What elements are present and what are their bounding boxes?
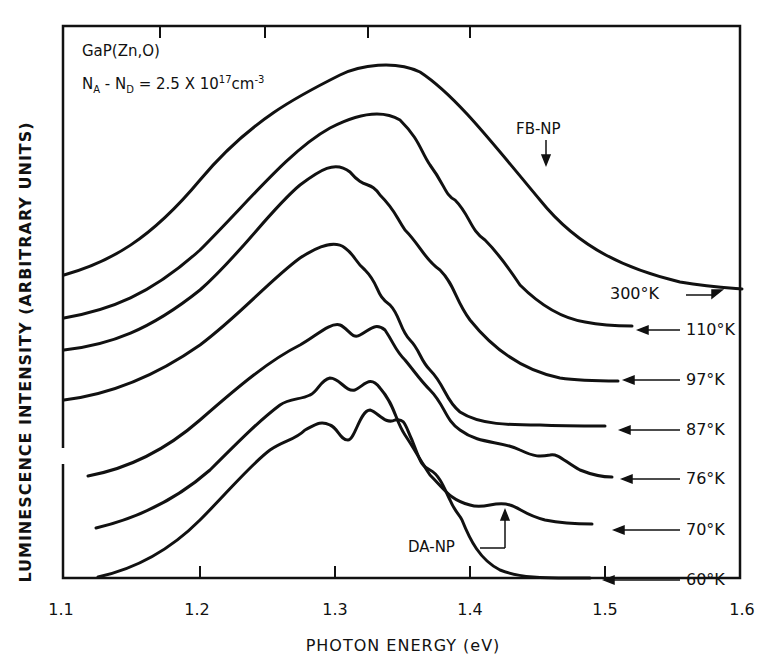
temp-label-87K: 87°K	[686, 420, 725, 439]
curve-97K	[64, 167, 618, 381]
curve-76K	[88, 325, 612, 477]
doping-unit-exp: -3	[254, 74, 264, 85]
x-tick-1.4: 1.4	[457, 600, 482, 619]
curve-60K	[98, 410, 590, 578]
chart-canvas	[0, 0, 774, 668]
doping-sub-d: D	[126, 84, 134, 95]
da-np-label: DA-NP	[408, 538, 455, 556]
y-axis-label-text: LUMINESCENCE INTENSITY (ARBITRARY UNITS)	[16, 121, 35, 582]
x-tick-1.5: 1.5	[592, 600, 617, 619]
curve-87K	[64, 244, 605, 426]
curve-110K	[64, 114, 632, 326]
sample-label: GaP(Zn,O)	[82, 42, 160, 60]
x-tick-1.1: 1.1	[48, 600, 73, 619]
temp-label-60K: 60°K	[686, 570, 725, 589]
doping-mid: - N	[100, 75, 126, 93]
x-axis-label: PHOTON ENERGY (eV)	[0, 636, 774, 655]
x-tick-1.6: 1.6	[729, 600, 754, 619]
x-ticks-top	[160, 26, 470, 38]
temp-label-76K: 76°K	[686, 469, 725, 488]
temp-label-70K: 70°K	[686, 520, 725, 539]
fb-np-label: FB-NP	[516, 120, 561, 138]
x-tick-1.2: 1.2	[184, 600, 209, 619]
x-tick-1.3: 1.3	[322, 600, 347, 619]
spectra-curves	[64, 65, 742, 578]
doping-value: = 2.5 X 10	[134, 75, 219, 93]
doping-n: N	[82, 75, 93, 93]
temp-label-300K: 300°K	[610, 284, 659, 303]
x-axis-label-text: PHOTON ENERGY (eV)	[306, 636, 501, 655]
curve-300K	[64, 65, 742, 289]
doping-exp: 17	[219, 74, 232, 85]
y-axis-label: LUMINESCENCE INTENSITY (ARBITRARY UNITS)	[10, 0, 40, 668]
temp-label-110K: 110°K	[686, 320, 735, 339]
curve-70K	[96, 378, 592, 528]
temp-label-97K: 97°K	[686, 370, 725, 389]
doping-unit: cm	[232, 75, 255, 93]
doping-label: NA - ND = 2.5 X 1017cm-3	[82, 74, 264, 95]
